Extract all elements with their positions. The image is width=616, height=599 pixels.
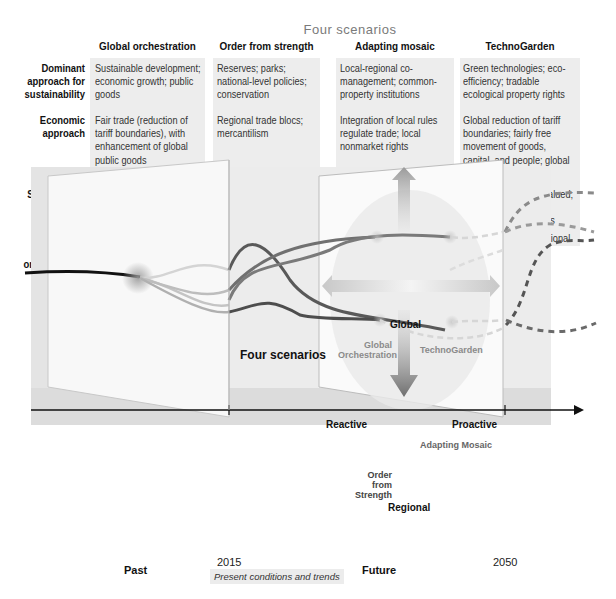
regional-label: Regional — [388, 502, 430, 513]
quadrant-technogarden: TechnoGarden — [420, 345, 483, 355]
reactive-label: Reactive — [326, 419, 367, 430]
present-caption: Present conditions and trends — [210, 569, 344, 584]
quadrant-order-from-strength: Order from Strength — [350, 470, 392, 500]
time-axis-arrow — [574, 405, 584, 415]
proactive-label: Proactive — [452, 419, 497, 430]
global-label: Global — [390, 319, 421, 330]
tick-2015: 2015 — [217, 556, 241, 568]
scenario-diagram — [0, 0, 616, 599]
four-scenarios-label: Four scenarios — [240, 348, 326, 362]
future-label: Future — [362, 564, 396, 576]
past-label: Past — [124, 564, 147, 576]
quadrant-global-orchestration: Global Orchestration — [338, 340, 392, 360]
quadrant-adapting-mosaic: Adapting Mosaic — [420, 440, 492, 450]
tick-2050: 2050 — [493, 556, 517, 568]
